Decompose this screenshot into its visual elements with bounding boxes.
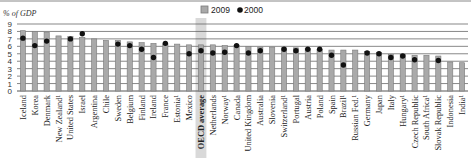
dot-2000 bbox=[222, 50, 227, 55]
category-label: New Zealand¹ bbox=[55, 95, 64, 143]
category-label: France bbox=[161, 95, 170, 118]
bar-2009 bbox=[293, 48, 298, 91]
dot-2000 bbox=[341, 62, 346, 67]
dot-2000 bbox=[151, 55, 156, 60]
dot-2000 bbox=[305, 47, 310, 52]
category-label: Poland bbox=[316, 94, 325, 118]
category-label: Israel bbox=[78, 94, 87, 113]
legend: 2009 2000 bbox=[201, 5, 263, 15]
dot-2000 bbox=[186, 51, 191, 56]
category-label: Finland bbox=[138, 94, 147, 120]
bar-2009 bbox=[163, 44, 168, 91]
bar-2009 bbox=[258, 47, 263, 91]
dot-2000 bbox=[317, 47, 322, 52]
bar-2009 bbox=[32, 31, 37, 91]
dot-2000 bbox=[210, 50, 215, 55]
dot-2000 bbox=[127, 43, 132, 48]
category-label: Czech Republic bbox=[411, 95, 420, 149]
dot-2000 bbox=[68, 36, 73, 41]
dot-2000 bbox=[388, 55, 393, 60]
dot-2000 bbox=[44, 38, 49, 43]
bar-2009 bbox=[151, 43, 156, 91]
dot-2000 bbox=[80, 31, 85, 36]
category-label: Russian Fed.¹ bbox=[351, 95, 360, 141]
category-label: Slovenia bbox=[268, 95, 277, 125]
dot-2000 bbox=[364, 50, 369, 55]
y-axis-title: % of GDP bbox=[3, 9, 36, 18]
category-label: Indonesia bbox=[446, 95, 455, 128]
category-label: Ireland bbox=[149, 94, 158, 119]
category-label: Netherlands bbox=[209, 95, 218, 135]
dot-2000 bbox=[115, 41, 120, 46]
category-label: Hungary¹ bbox=[399, 95, 408, 127]
category-label: India¹ bbox=[458, 95, 467, 115]
dot-2000 bbox=[32, 43, 37, 48]
category-label: Argentina bbox=[90, 95, 99, 129]
bar-2009 bbox=[400, 55, 405, 91]
dot-2000 bbox=[400, 53, 405, 58]
bar-2009 bbox=[365, 52, 370, 91]
category-label: Belgium bbox=[126, 95, 135, 124]
category-label: Switzerland¹ bbox=[280, 95, 289, 138]
bar-2009 bbox=[270, 47, 275, 91]
category-label: Norway¹ bbox=[221, 95, 230, 125]
bar-2009 bbox=[448, 62, 453, 91]
bar-2009 bbox=[103, 40, 108, 91]
dot-2000 bbox=[412, 57, 417, 62]
bar-2009 bbox=[127, 42, 132, 91]
category-label: Korea bbox=[31, 95, 40, 116]
category-label: Japan bbox=[375, 94, 384, 114]
dot-2000 bbox=[281, 47, 286, 52]
bar-2009 bbox=[115, 40, 120, 91]
category-label: Canada bbox=[233, 95, 242, 120]
category-label: Denmark bbox=[43, 94, 52, 126]
legend-dot-2000 bbox=[237, 7, 243, 13]
dot-2000 bbox=[163, 41, 168, 46]
bar-2009 bbox=[92, 39, 97, 91]
bar-2009 bbox=[56, 36, 61, 91]
category-label: OECD average bbox=[197, 95, 206, 149]
category-label: United Kingdom bbox=[244, 95, 253, 152]
bar-2009 bbox=[317, 49, 322, 91]
legend-label-2009: 2009 bbox=[211, 5, 230, 15]
category-label: Spain bbox=[328, 94, 337, 114]
bar-2009 bbox=[376, 52, 381, 91]
dot-2000 bbox=[198, 48, 203, 53]
dot-2000 bbox=[376, 51, 381, 56]
bar-2009 bbox=[353, 50, 358, 91]
category-label: Germany bbox=[363, 94, 372, 126]
category-label: Portugal bbox=[292, 94, 301, 123]
dot-2000 bbox=[234, 43, 239, 48]
dot-2000 bbox=[139, 47, 144, 52]
dot-2000 bbox=[293, 48, 298, 53]
dot-2000 bbox=[246, 50, 251, 55]
category-label: United States bbox=[66, 95, 75, 140]
bar-2009 bbox=[281, 48, 286, 91]
legend-swatch-2009 bbox=[201, 6, 208, 13]
bar-2009 bbox=[305, 49, 310, 91]
category-label: Sweden bbox=[114, 94, 123, 121]
category-label: South Africa¹ bbox=[422, 95, 431, 141]
bar-2009 bbox=[68, 37, 73, 91]
bar-2009 bbox=[80, 37, 85, 91]
dot-2000 bbox=[436, 58, 441, 63]
category-label: Chile bbox=[102, 95, 111, 113]
dot-2000 bbox=[258, 48, 263, 53]
bar-2009 bbox=[459, 63, 464, 91]
category-label: Australia bbox=[256, 95, 265, 126]
dot-2000 bbox=[329, 53, 334, 58]
bar-2009 bbox=[424, 55, 429, 91]
bar-2009 bbox=[175, 44, 180, 91]
chart: % of GDP 2009 2000 0123456789 IcelandKor… bbox=[0, 0, 471, 160]
category-label: Iceland bbox=[19, 94, 28, 119]
y-tick-label: 9 bbox=[8, 20, 13, 29]
dot-2000 bbox=[20, 35, 25, 40]
category-label: Italy bbox=[387, 94, 396, 110]
category-label: Estonia¹ bbox=[173, 95, 182, 123]
bar-2009 bbox=[234, 46, 239, 91]
category-label: Brazil¹ bbox=[339, 95, 348, 118]
bar-2009 bbox=[341, 50, 346, 91]
category-label: Austria bbox=[304, 95, 313, 120]
category-label: Slovak Republic bbox=[434, 95, 443, 151]
category-label: Mexico bbox=[185, 95, 194, 121]
